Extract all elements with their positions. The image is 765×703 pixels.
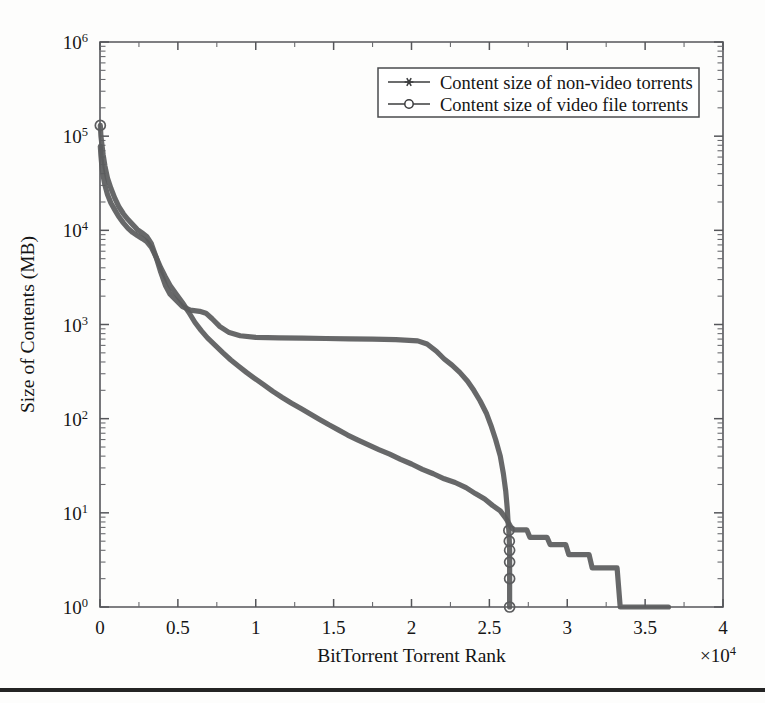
data-series-group	[95, 120, 668, 612]
footer-rule	[0, 688, 765, 692]
x-tick-label: 0	[95, 617, 105, 638]
y-tick-label: 104	[63, 219, 89, 241]
y-tick-label: 106	[63, 31, 88, 53]
x-tick-label: 3	[563, 617, 573, 638]
x-tick-label: 2	[407, 617, 417, 638]
legend-label-2: Content size of video file torrents	[440, 95, 688, 115]
y-axis-tick-labels: 100101102103104105106	[63, 31, 89, 618]
x-axis-title: BitTorrent Torrent Rank	[317, 645, 506, 666]
chart-legend[interactable]: Content size of non-video torrentsConten…	[378, 68, 699, 117]
chart-canvas: 00.511.522.533.54 100101102103104105106 …	[0, 0, 765, 703]
y-tick-label: 103	[63, 314, 88, 336]
x-tick-label: 4	[718, 617, 728, 638]
x-axis-multiplier: ×104	[700, 644, 737, 666]
x-axis-tick-labels: 00.511.522.533.54	[95, 617, 728, 638]
y-axis-title: Size of Contents (MB)	[17, 236, 39, 413]
legend-label-1: Content size of non-video torrents	[440, 73, 693, 93]
x-tick-label: 1.5	[322, 617, 346, 638]
legend-marker-circle	[405, 100, 413, 108]
y-tick-label: 102	[63, 408, 88, 430]
x-tick-label: 2.5	[478, 617, 502, 638]
y-tick-label: 100	[63, 596, 88, 618]
series-line-1	[100, 146, 668, 607]
y-tick-label: 105	[63, 125, 88, 147]
x-tick-label: 0.5	[166, 617, 190, 638]
x-tick-label: 3.5	[633, 617, 657, 638]
y-tick-label: 101	[63, 502, 88, 524]
figure-container: 00.511.522.533.54 100101102103104105106 …	[0, 0, 765, 703]
series-line-2	[100, 125, 509, 607]
x-tick-label: 1	[251, 617, 261, 638]
plot-area: 00.511.522.533.54 100101102103104105106 …	[17, 31, 737, 666]
